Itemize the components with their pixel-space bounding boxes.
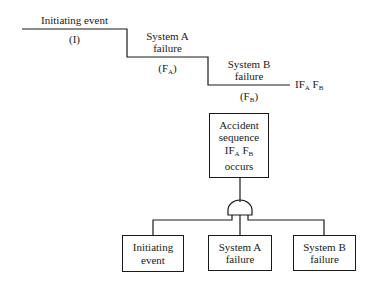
outcome-p1: IF [295,78,305,90]
outcome-s2: B [319,84,324,92]
outcome-p2: F [310,78,319,90]
l3-p2: F [240,144,249,156]
input-line1: System A [219,241,261,254]
input-box-system-b: System B failure [293,235,356,271]
top-event-line4: occurs [225,160,254,173]
system-b-line1: System B [208,58,290,70]
symbol-end: ) [254,90,258,102]
top-event-line2: sequence [219,131,259,144]
top-event-line1: Accident [219,119,259,132]
input-line2: failure [310,253,339,266]
l3-p1: IF [225,144,235,156]
outcome-label: IFA FB [295,78,323,94]
top-event-line3: IFA FB [225,144,253,161]
system-b-label: System B failure [208,58,290,82]
system-a-symbol: (FA) [127,62,208,78]
system-a-line1: System A [127,30,208,42]
system-a-line2: failure [127,42,208,54]
input-box-system-a: System A failure [208,235,272,271]
right-connector [248,215,324,235]
l3-s2: B [249,150,254,158]
input-line2: failure [226,253,255,266]
input-line1: System B [303,241,345,254]
input-line2: event [141,254,165,267]
left-connector [153,215,232,235]
symbol-base: (F [158,62,168,74]
system-b-symbol: (FB) [208,90,290,106]
input-box-initiating-event: Initiating event [122,235,184,272]
top-event-box: Accident sequence IFA FB occurs [209,113,269,178]
symbol-base: (F [240,90,250,102]
system-a-label: System A failure [127,30,208,54]
initiating-event-symbol: (I) [22,33,127,45]
initiating-event-label: Initiating event [22,14,127,26]
and-gate-icon [228,200,252,215]
system-b-line2: failure [208,70,290,82]
input-line1: Initiating [133,241,173,254]
symbol-end: ) [173,62,177,74]
